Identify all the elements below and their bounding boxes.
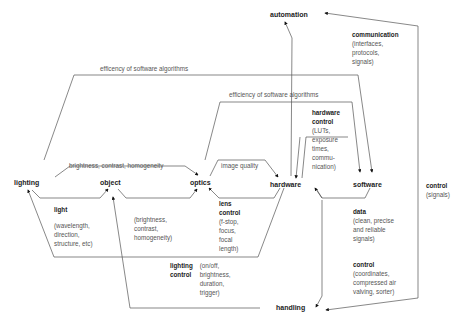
annotation-data: data (clean, precise and reliable signal… <box>353 207 394 243</box>
annotation-title: lighting control <box>170 261 198 279</box>
edge-hardware-automation <box>285 22 292 176</box>
edge-object-optics <box>118 189 197 198</box>
edge-software-hardware <box>317 188 370 198</box>
annotation-control-handling: control (coordinates, compressed air val… <box>353 260 396 296</box>
annotation-lens-control: lens control (f-stop, focus, focal lengt… <box>219 199 249 253</box>
annotation-title: light <box>54 205 93 214</box>
annotation-desc: (wavelength, direction, structure, etc) <box>54 221 93 248</box>
label-inner-efficiency: efficiency of software algorithms <box>229 91 318 98</box>
node-automation: automation <box>270 11 308 18</box>
edge-hwcontrol-hardware <box>296 137 300 178</box>
annotation-object-properties: (brightness, contrast, homogeneity) <box>134 215 172 242</box>
annotation-hardware-control: hardware control (LUTs, exposure times, … <box>312 108 352 171</box>
label-brightness-contrast: brightness, contrast, homogeneity <box>69 162 164 169</box>
node-software: software <box>353 181 382 188</box>
annotation-communication: communication (interfaces, protocols, si… <box>352 30 399 66</box>
node-optics: optics <box>190 179 211 186</box>
annotation-lighting-control: lighting control (on/off, brightness, du… <box>170 261 231 297</box>
edge-hardware-handling <box>316 200 322 307</box>
annotation-desc: (coordinates, compressed air valving, so… <box>353 269 396 296</box>
annotation-title: communication <box>352 30 399 39</box>
label-image-quality: image quality <box>221 162 258 169</box>
annotation-desc: (LUTs, exposure times, commu- nication) <box>312 126 352 171</box>
node-lighting: lighting <box>14 179 39 186</box>
annotation-desc: (on/off, brightness, duration, trigger) <box>200 261 231 297</box>
edge-control-handling <box>326 298 418 310</box>
annotation-desc: (signals) <box>426 190 450 199</box>
annotation-control-signals: control (signals) <box>426 181 450 199</box>
annotation-title: data <box>353 207 394 216</box>
annotation-title: control <box>353 260 396 269</box>
edge-lighting-object <box>32 189 108 198</box>
annotation-title: control <box>426 181 450 190</box>
annotation-title: hardware control <box>312 108 352 126</box>
edge-data-hardware <box>315 188 322 198</box>
annotation-desc: (brightness, contrast, homogeneity) <box>134 215 172 242</box>
label-outer-efficiency: efficency of software algorithms <box>100 65 188 72</box>
edge-hardware-optics <box>209 188 280 198</box>
node-hardware: hardware <box>270 181 301 188</box>
annotation-light: light (wavelength, direction, structure,… <box>54 205 93 248</box>
node-handling: handling <box>276 304 305 311</box>
annotation-desc: (f-stop, focus, focal length) <box>219 217 249 253</box>
annotation-desc: (clean, precise and reliable signals) <box>353 216 394 243</box>
node-object: object <box>100 179 121 186</box>
annotation-desc: (interfaces, protocols, signals) <box>352 39 399 66</box>
annotation-title: lens control <box>219 199 249 217</box>
